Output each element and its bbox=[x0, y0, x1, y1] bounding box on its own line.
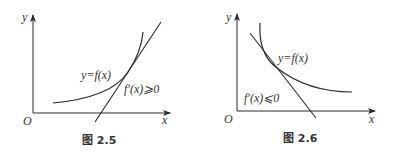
figure-2-6: y O x y=f(x) f′(x)⩽0 图 2.6 bbox=[224, 10, 375, 145]
figure-caption: 图 2.6 bbox=[283, 132, 318, 145]
y-axis-label: y bbox=[21, 10, 28, 24]
tangent-line bbox=[250, 33, 316, 118]
origin-label: O bbox=[23, 114, 32, 128]
curve-label: y=f(x) bbox=[80, 68, 111, 82]
curve-label: y=f(x) bbox=[277, 51, 308, 65]
origin-label: O bbox=[224, 112, 233, 126]
condition-label: f′(x)⩽0 bbox=[244, 91, 279, 105]
diagram-canvas: y O x y=f(x) f′(x)⩾0 图 2.5 y O x y=f(x) … bbox=[0, 0, 394, 155]
y-axis-label: y bbox=[225, 10, 232, 24]
x-axis-label: x bbox=[368, 112, 375, 126]
figure-2-5: y O x y=f(x) f′(x)⩾0 图 2.5 bbox=[21, 10, 170, 147]
x-axis-label: x bbox=[161, 113, 168, 127]
condition-label: f′(x)⩾0 bbox=[124, 82, 159, 96]
figure-caption: 图 2.5 bbox=[82, 134, 116, 147]
